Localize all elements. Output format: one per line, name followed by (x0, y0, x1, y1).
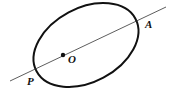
label-p: P (27, 75, 34, 87)
point-o-marker (61, 53, 65, 57)
label-o: O (68, 53, 76, 65)
label-a: A (144, 18, 152, 30)
secant-line (10, 7, 166, 81)
ellipse-diagram: O A P (0, 0, 174, 90)
